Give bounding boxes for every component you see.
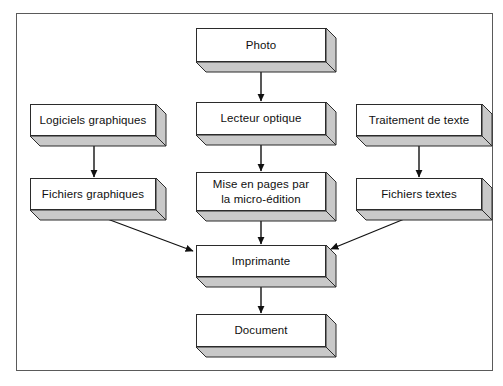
- node-photo-face: Photo: [196, 28, 326, 62]
- node-traitement-de-texte-label: Traitement de texte: [369, 113, 470, 127]
- node-imprimante[interactable]: Imprimante: [196, 245, 326, 277]
- node-fichiers-graphiques-label: Fichiers graphiques: [42, 187, 144, 201]
- node-traitement-de-texte[interactable]: Traitement de texte: [356, 104, 482, 136]
- node-lecteur-optique[interactable]: Lecteur optique: [196, 102, 326, 135]
- node-traitement-de-texte-face: Traitement de texte: [356, 104, 482, 136]
- diagram-canvas: Photo Logiciels graphiques Lecteur optiq…: [0, 0, 503, 386]
- node-mise-en-pages[interactable]: Mise en pages par la micro-édition: [196, 172, 326, 211]
- node-logiciels-graphiques[interactable]: Logiciels graphiques: [30, 104, 156, 136]
- node-imprimante-label: Imprimante: [232, 254, 291, 268]
- node-mise-en-pages-face: Mise en pages par la micro-édition: [196, 172, 326, 211]
- node-lecteur-optique-label: Lecteur optique: [221, 111, 302, 125]
- node-photo-label: Photo: [246, 38, 277, 52]
- node-document-label: Document: [234, 323, 287, 337]
- node-fichiers-graphiques[interactable]: Fichiers graphiques: [30, 178, 156, 210]
- node-photo[interactable]: Photo: [196, 28, 326, 62]
- node-imprimante-face: Imprimante: [196, 245, 326, 277]
- node-fichiers-textes-face: Fichiers textes: [356, 178, 482, 210]
- node-fichiers-textes[interactable]: Fichiers textes: [356, 178, 482, 210]
- node-document[interactable]: Document: [196, 314, 326, 347]
- node-fichiers-graphiques-face: Fichiers graphiques: [30, 178, 156, 210]
- node-mise-en-pages-label: Mise en pages par la micro-édition: [213, 177, 309, 205]
- node-document-face: Document: [196, 314, 326, 347]
- node-lecteur-optique-face: Lecteur optique: [196, 102, 326, 135]
- node-fichiers-textes-label: Fichiers textes: [381, 187, 457, 201]
- node-logiciels-graphiques-label: Logiciels graphiques: [40, 113, 147, 127]
- node-logiciels-graphiques-face: Logiciels graphiques: [30, 104, 156, 136]
